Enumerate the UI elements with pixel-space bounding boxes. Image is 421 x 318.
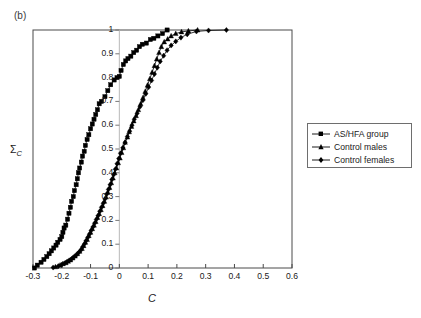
square-marker-icon (74, 183, 78, 187)
diamond-marker-icon (206, 28, 210, 33)
square-marker-icon (79, 160, 83, 164)
legend-item-0: AS/HFA group (311, 127, 411, 140)
triangle-marker-icon (157, 50, 162, 55)
square-marker-icon (69, 199, 73, 203)
x-tick-label: 0 (104, 271, 134, 281)
square-marker-icon (140, 42, 144, 46)
triangle-marker-icon (154, 56, 159, 61)
square-marker-icon (152, 36, 156, 40)
y-tick-label: 0.7 (91, 95, 113, 105)
square-marker-icon (165, 28, 169, 32)
x-tick-label: 0.1 (133, 271, 163, 281)
square-marker-icon (87, 133, 91, 137)
legend-label: Control males (334, 142, 387, 152)
y-tick-label: 0.2 (91, 214, 113, 224)
square-marker-icon (83, 143, 87, 147)
x-tick-label: -0.2 (47, 271, 77, 281)
figure-panel-b: (b) ΣC C -0.3-0.2-0.100.10.20.30.40.50.6… (0, 0, 421, 318)
square-marker-icon (72, 189, 76, 193)
y-tick-label: 0.6 (91, 119, 113, 129)
y-tick-label: 0.4 (91, 167, 113, 177)
triangle-marker-icon (169, 33, 174, 38)
square-marker-icon (71, 195, 75, 199)
triangle-marker-icon (159, 44, 164, 49)
square-marker-icon (68, 205, 72, 209)
square-marker-icon (82, 149, 86, 153)
y-tick-label: 1 (91, 24, 113, 34)
square-marker-icon (144, 41, 148, 45)
diamond-marker-icon (179, 35, 183, 40)
x-tick-label: 0.4 (219, 271, 249, 281)
square-marker-icon (119, 68, 123, 72)
x-tick-label: 0.6 (277, 271, 307, 281)
legend-key (311, 128, 333, 140)
x-tick-label: 0.5 (248, 271, 278, 281)
legend-key (311, 154, 333, 166)
square-marker-icon (80, 154, 84, 158)
square-marker-icon (64, 223, 68, 227)
x-tick-label: -0.1 (76, 271, 106, 281)
square-marker-icon (60, 234, 64, 238)
square-marker-icon (78, 166, 82, 170)
x-tick-label: 0.3 (191, 271, 221, 281)
y-tick-label: 0.5 (91, 143, 113, 153)
legend-box: AS/HFA groupControl malesControl females (307, 123, 412, 168)
square-marker-icon (160, 31, 164, 35)
square-marker-icon (76, 171, 80, 175)
legend-label: Control females (334, 155, 394, 165)
y-tick-label: 0 (91, 262, 113, 272)
square-marker-icon (75, 177, 79, 181)
legend-item-2: Control females (311, 153, 411, 166)
diamond-marker-icon (319, 157, 324, 163)
plot-frame (33, 30, 292, 268)
y-tick-label: 0.3 (91, 191, 113, 201)
square-marker-icon (319, 131, 323, 135)
y-tick-label: 0.1 (91, 238, 113, 248)
square-marker-icon (94, 112, 98, 116)
square-marker-icon (67, 211, 71, 215)
square-marker-icon (106, 89, 110, 93)
y-tick-label: 0.9 (91, 48, 113, 58)
square-marker-icon (156, 34, 160, 38)
square-marker-icon (61, 230, 65, 234)
square-marker-icon (65, 217, 69, 221)
legend-item-1: Control males (311, 140, 411, 153)
legend-label: AS/HFA group (334, 129, 388, 139)
series-line (55, 30, 197, 267)
square-marker-icon (117, 74, 121, 78)
legend-key (311, 141, 333, 153)
x-tick-label: -0.3 (18, 271, 48, 281)
x-tick-label: 0.2 (162, 271, 192, 281)
series-line (53, 30, 226, 268)
square-marker-icon (95, 108, 99, 112)
diamond-marker-icon (224, 27, 228, 32)
y-tick-label: 0.8 (91, 72, 113, 82)
square-marker-icon (109, 83, 113, 87)
square-marker-icon (85, 137, 89, 141)
